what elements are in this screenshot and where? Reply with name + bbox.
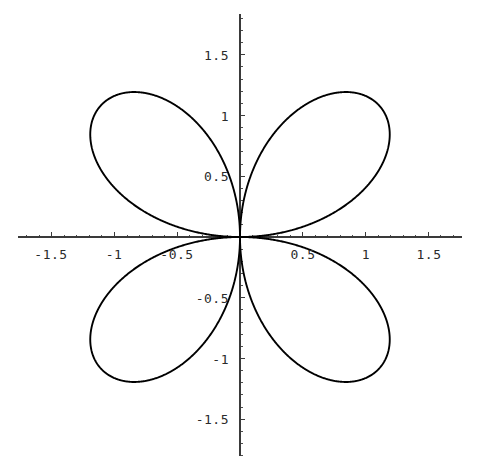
- x-tick-label: -0.5: [160, 248, 193, 261]
- polar-plot-figure: -1.5-1-0.50.511.5 1.510.5-0.5-1-1.5: [0, 0, 478, 470]
- y-tick-label: 1.5: [204, 49, 229, 62]
- y-tick-label: -1.5: [196, 413, 229, 426]
- y-tick-label: 0.5: [204, 170, 229, 183]
- x-tick-label: 1: [362, 248, 370, 261]
- x-tick-label: -1.5: [34, 248, 67, 261]
- x-tick-label: -1: [106, 248, 123, 261]
- y-tick-label: -0.5: [196, 292, 229, 305]
- plot-canvas: [0, 0, 478, 470]
- x-tick-label: 1.5: [417, 248, 442, 261]
- y-tick-label: 1: [221, 110, 229, 123]
- x-tick-label: 0.5: [291, 248, 316, 261]
- y-tick-label: -1: [212, 353, 229, 366]
